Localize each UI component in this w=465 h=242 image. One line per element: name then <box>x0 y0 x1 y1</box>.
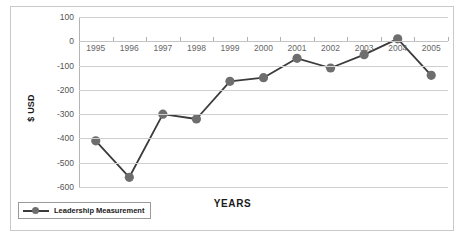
x-tick-label-2003: 2003 <box>355 43 374 53</box>
x-tick-mark <box>448 37 449 41</box>
gridline--600 <box>79 187 448 188</box>
x-axis-tick-labels: 1995199619971998199920002001200220032004… <box>79 43 448 57</box>
x-tick-label-2004: 2004 <box>388 43 407 53</box>
chart-container: $ USD 1000-100-200-300-400-500-600 19951… <box>0 0 465 242</box>
data-point-1996 <box>125 173 134 182</box>
x-tick-mark <box>213 37 214 41</box>
x-tick-label-2005: 2005 <box>422 43 441 53</box>
gridline-0 <box>79 41 448 42</box>
y-axis-title: $ USD <box>26 68 36 148</box>
x-tick-label-1995: 1995 <box>86 43 105 53</box>
y-tick-label: -400 <box>44 133 74 143</box>
x-tick-mark <box>381 37 382 41</box>
x-tick-label-1996: 1996 <box>120 43 139 53</box>
gridline--100 <box>79 66 448 67</box>
data-point-2005 <box>427 71 436 80</box>
gridline--400 <box>79 138 448 139</box>
data-point-1998 <box>192 114 201 123</box>
x-tick-mark <box>314 37 315 41</box>
x-tick-mark <box>79 37 80 41</box>
y-tick-label: -600 <box>44 182 74 192</box>
y-tick-label: -500 <box>44 158 74 168</box>
x-tick-mark <box>180 37 181 41</box>
y-tick-label: 100 <box>44 12 74 22</box>
x-tick-label-1997: 1997 <box>153 43 172 53</box>
legend-item-label: Leadership Measurement <box>54 206 144 215</box>
x-tick-label-2000: 2000 <box>254 43 273 53</box>
x-tick-mark <box>280 37 281 41</box>
x-tick-label-1999: 1999 <box>220 43 239 53</box>
data-point-1999 <box>225 77 234 86</box>
x-tick-mark <box>347 37 348 41</box>
x-tick-mark <box>113 37 114 41</box>
x-tick-mark <box>146 37 147 41</box>
legend-line-marker-icon <box>23 206 49 216</box>
gridline--200 <box>79 90 448 91</box>
x-tick-label-1998: 1998 <box>187 43 206 53</box>
gridline--300 <box>79 114 448 115</box>
gridline-100 <box>79 17 448 18</box>
x-tick-mark <box>247 37 248 41</box>
y-tick-label: -300 <box>44 109 74 119</box>
gridline--500 <box>79 163 448 164</box>
chart-legend: Leadership Measurement <box>18 202 151 219</box>
y-tick-label: -100 <box>44 61 74 71</box>
y-tick-label: -200 <box>44 85 74 95</box>
y-tick-label: 0 <box>44 36 74 46</box>
x-tick-mark <box>414 37 415 41</box>
x-tick-label-2001: 2001 <box>288 43 307 53</box>
x-tick-label-2002: 2002 <box>321 43 340 53</box>
data-point-2000 <box>259 73 268 82</box>
